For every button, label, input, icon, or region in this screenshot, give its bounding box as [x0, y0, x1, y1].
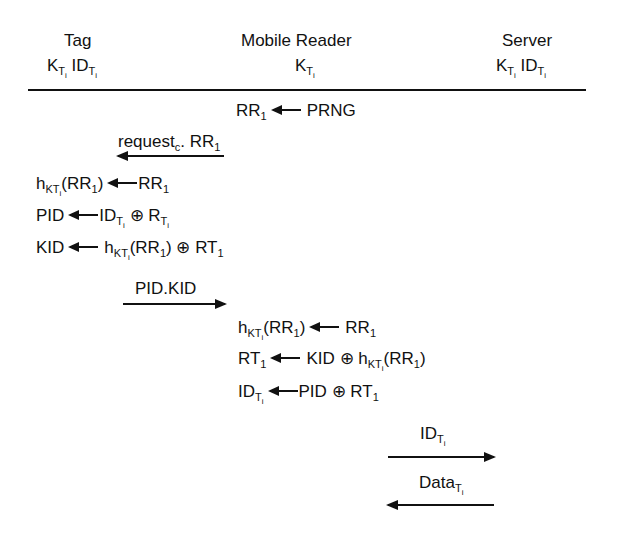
step-tag-kid: KIDhKTi(RR1) ⊕ RT1: [36, 239, 224, 258]
step-reader-rt1: RT1KID ⊕ hKTi(RR1): [238, 350, 426, 369]
tag-keys: KTi IDTi: [47, 57, 97, 76]
msg-data-label: DataTi: [419, 474, 463, 493]
header-divider: [28, 89, 586, 91]
reader-keys: KTi: [295, 57, 315, 76]
step-tag-pid: PIDIDTi ⊕ RTi: [36, 207, 169, 226]
assign-arrow-icon: [273, 109, 301, 111]
assign-arrow-icon: [70, 214, 98, 216]
assign-arrow-icon: [109, 182, 137, 184]
msg-pidkid-arrow-icon: [123, 303, 225, 305]
tag-title: Tag: [64, 32, 91, 49]
msg-request-arrow-icon: [118, 155, 224, 157]
msg-id-arrow-icon: [388, 456, 494, 458]
reader-title: Mobile Reader: [241, 32, 352, 49]
server-keys: KTi IDTi: [496, 57, 546, 76]
msg-data-arrow-icon: [388, 504, 494, 506]
step-reader-hash: hKTi(RR1)RR1: [238, 319, 376, 338]
step-tag-hash: hKTi(RR1)RR1: [36, 175, 169, 194]
msg-pidkid-label: PID.KID: [135, 280, 196, 297]
assign-arrow-icon: [311, 326, 339, 328]
assign-arrow-icon: [272, 357, 300, 359]
assign-arrow-icon: [70, 246, 98, 248]
assign-arrow-icon: [270, 390, 298, 392]
msg-request-label: requestc. RR1: [118, 133, 220, 150]
step-reader-id: IDTiPID ⊕ RT1: [238, 383, 379, 402]
server-title: Server: [502, 32, 552, 49]
step-rr1-prng: RR1PRNG: [236, 102, 356, 119]
msg-id-label: IDTi: [420, 425, 446, 444]
